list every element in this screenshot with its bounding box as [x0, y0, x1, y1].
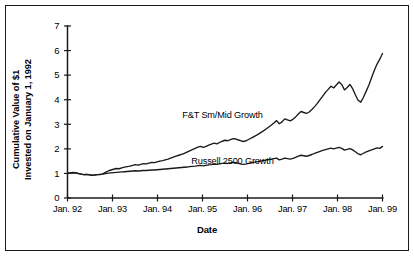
x-axis-title: Date [0, 224, 414, 235]
y-axis-title-line2: Invested on January 1, 1992 [22, 32, 34, 208]
y-tick-label: 4 [44, 95, 60, 105]
y-tick-label: 0 [44, 193, 60, 203]
y-tick-label: 6 [44, 46, 60, 56]
x-tick-label: Jan. 99 [357, 205, 409, 214]
plot-area [0, 0, 414, 256]
y-tick-label: 2 [44, 144, 60, 154]
y-tick-label: 7 [44, 21, 60, 31]
y-axis-title: Cumulative Value of $1 Invested on Janua… [11, 32, 34, 208]
series-label-1: F&T Sm/Mid Growth [182, 111, 263, 120]
series-label-2: Russell 2500 Growth [191, 157, 273, 166]
line-chart-svg [0, 0, 414, 256]
y-axis-title-line1: Cumulative Value of $1 [11, 32, 23, 208]
chart-figure: Cumulative Value of $1 Invested on Janua… [0, 0, 414, 256]
y-tick-label: 1 [44, 169, 60, 179]
y-tick-label: 5 [44, 70, 60, 80]
y-tick-label: 3 [44, 120, 60, 130]
